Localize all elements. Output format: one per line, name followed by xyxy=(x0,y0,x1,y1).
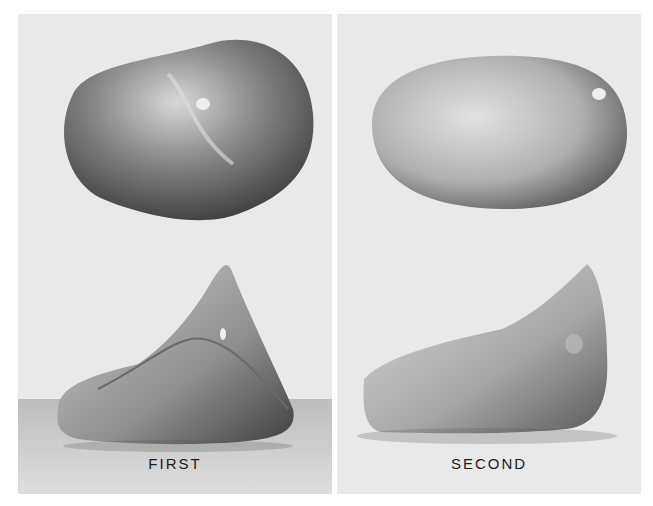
second-illustration xyxy=(337,14,641,494)
label-second: SECOND xyxy=(337,455,641,472)
first-illustration xyxy=(18,14,332,494)
label-first: FIRST xyxy=(18,455,332,472)
panel-second: SECOND xyxy=(337,14,641,494)
panel-first: FIRST xyxy=(18,14,332,494)
